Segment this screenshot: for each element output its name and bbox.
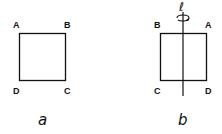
vertex-label-a-top-right: B xyxy=(64,21,71,30)
caption-a: a xyxy=(38,113,47,128)
vertex-label-b-bottom-left: C xyxy=(154,87,161,96)
diagram-canvas xyxy=(0,0,222,134)
axis-label: ℓ xyxy=(179,1,184,13)
vertex-label-b-top-left: B xyxy=(154,21,161,30)
vertex-label-b-top-right: A xyxy=(205,21,212,30)
vertex-label-b-bottom-right: D xyxy=(205,87,212,96)
vertex-label-a-top-left: A xyxy=(13,21,20,30)
vertex-label-a-bottom-left: D xyxy=(13,87,20,96)
square-a xyxy=(20,34,66,81)
caption-b: b xyxy=(178,113,188,128)
vertex-label-a-bottom-right: C xyxy=(64,87,71,96)
